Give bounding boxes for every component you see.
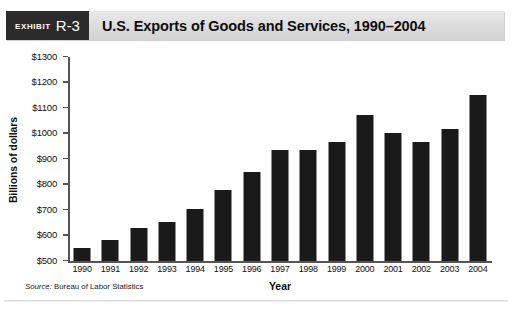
y-axis-tick-label: $1300 (32, 50, 57, 61)
source-text: Bureau of Labor Statistics (52, 282, 143, 291)
bar-1996 (243, 172, 260, 261)
bar-group: 1998 (294, 57, 322, 261)
y-axis-tick-label: $700 (37, 203, 57, 214)
exhibit-number: R-3 (56, 18, 80, 33)
bar-1997 (271, 150, 288, 261)
bar-2004 (469, 95, 486, 261)
bar-group: 1999 (322, 57, 350, 261)
chart-title: U.S. Exports of Goods and Services, 1990… (102, 11, 426, 40)
bar-1991 (102, 240, 119, 261)
bar-group: 1992 (125, 57, 153, 261)
source-label: Source: (25, 282, 52, 291)
bar-1992 (130, 228, 147, 261)
x-axis-tick-label: 2004 (468, 264, 487, 274)
y-axis-tick-label: $800 (37, 178, 57, 189)
x-axis-line (68, 261, 492, 263)
bar-1999 (328, 142, 345, 261)
plot-area: $500$600$700$800$900$1000$1100$1200$1300… (68, 57, 492, 261)
y-axis-tick-label: $600 (37, 229, 57, 240)
bar-2003 (441, 129, 458, 261)
chart-canvas: Billions of dollars $500$600$700$800$900… (0, 46, 512, 292)
y-axis-tick-label: $500 (37, 254, 57, 265)
bar-group: 1996 (238, 57, 266, 261)
x-axis-tick-label: 2001 (383, 264, 402, 274)
bar-1998 (300, 150, 317, 261)
exhibit-label: Exhibit (15, 23, 51, 31)
y-axis-tick-label: $1100 (32, 101, 57, 112)
x-axis-tick-label: 1993 (157, 264, 176, 274)
y-axis-tick-label: $900 (37, 152, 57, 163)
x-axis-tick-label: 1996 (242, 264, 261, 274)
source-note: Source: Bureau of Labor Statistics (25, 282, 143, 291)
bar-series: 1990199119921993199419951996199719981999… (68, 57, 492, 261)
x-axis-tick-label: 1992 (129, 264, 148, 274)
x-axis-tick-label: 2000 (355, 264, 374, 274)
bar-group: 2004 (464, 57, 492, 261)
bar-2001 (385, 133, 402, 261)
bar-group: 2002 (407, 57, 435, 261)
x-axis-tick-label: 2002 (412, 264, 431, 274)
bar-group: 1994 (181, 57, 209, 261)
x-axis-tick-label: 1999 (327, 264, 346, 274)
bar-group: 1995 (209, 57, 237, 261)
bar-group: 2001 (379, 57, 407, 261)
x-axis-tick-label: 1991 (101, 264, 120, 274)
x-axis-tick-label: 1990 (73, 264, 92, 274)
x-axis-tick-label: 1995 (214, 264, 233, 274)
exhibit-header-band: Exhibit R-3 U.S. Exports of Goods and Se… (6, 11, 504, 40)
bar-group: 1991 (96, 57, 124, 261)
y-axis-tick-label: $1200 (32, 76, 57, 87)
bar-group: 1993 (153, 57, 181, 261)
bar-1994 (187, 209, 204, 261)
bar-group: 2003 (435, 57, 463, 261)
y-axis-title: Billions of dollars (7, 95, 19, 225)
bar-group: 1990 (68, 57, 96, 261)
bar-1993 (158, 222, 175, 261)
exhibit-figure: Exhibit R-3 U.S. Exports of Goods and Se… (0, 0, 512, 311)
bar-group: 1997 (266, 57, 294, 261)
exhibit-badge: Exhibit R-3 (6, 11, 89, 40)
bar-1990 (74, 248, 91, 261)
figure-bottom-edge (4, 300, 508, 302)
y-axis-tick-label: $1000 (32, 127, 57, 138)
bar-2002 (413, 142, 430, 261)
x-axis-tick-label: 1994 (186, 264, 205, 274)
x-axis-tick-label: 1998 (299, 264, 318, 274)
bar-group: 2000 (351, 57, 379, 261)
bar-2000 (356, 115, 373, 261)
x-axis-tick-label: 1997 (270, 264, 289, 274)
x-axis-tick-label: 2003 (440, 264, 459, 274)
bar-1995 (215, 190, 232, 261)
